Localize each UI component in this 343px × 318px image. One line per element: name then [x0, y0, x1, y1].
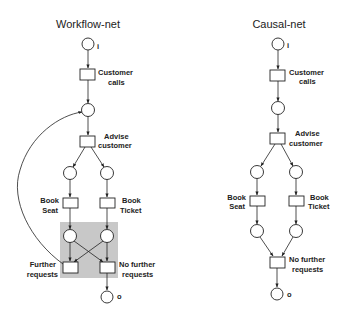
label-book-seat-2: Seat — [229, 202, 245, 211]
label-book-ticket-2: Ticket — [120, 206, 142, 215]
label-customer-calls: Customer — [98, 68, 133, 77]
transition-further-requests — [63, 262, 78, 273]
label-input: i — [97, 42, 99, 51]
place-p2 — [251, 166, 264, 179]
label-book-ticket-2: Ticket — [308, 202, 330, 211]
label-book-seat: Book — [40, 196, 60, 205]
label-book-ticket: Book — [310, 193, 330, 202]
label-advise: Advise — [104, 132, 129, 141]
diagram-canvas: Workflow-net i Cu — [0, 0, 343, 318]
label-input: i — [287, 41, 289, 50]
label-no-further-2: requests — [122, 270, 153, 279]
place-p1 — [82, 104, 95, 117]
transition-no-further-requests — [100, 262, 115, 273]
label-customer-calls: Customer — [289, 68, 324, 77]
label-advise-2: customer — [98, 141, 132, 150]
place-p1 — [272, 102, 285, 115]
label-customer-calls-2: calls — [108, 78, 125, 87]
transition-book-seat — [250, 196, 265, 206]
transition-book-ticket — [289, 196, 304, 206]
transition-no-further-requests — [270, 257, 285, 268]
transition-customer-calls — [270, 70, 285, 81]
place-p2 — [64, 167, 77, 180]
place-p3 — [290, 166, 303, 179]
label-book-seat-2: Seat — [42, 206, 58, 215]
transition-advise-customer — [80, 136, 95, 147]
label-further: Further — [30, 260, 56, 269]
transition-advise-customer — [270, 133, 285, 144]
place-input — [272, 38, 284, 50]
label-no-further: No further — [289, 255, 325, 264]
label-advise-2: customer — [289, 139, 323, 148]
place-p5 — [290, 225, 303, 238]
workflow-net: Workflow-net i Cu — [17, 18, 155, 303]
causal-net-title: Causal-net — [252, 18, 305, 30]
place-p3 — [101, 167, 114, 180]
causal-net: Causal-net i Customer calls Advise c — [227, 18, 330, 300]
place-output — [101, 291, 113, 303]
label-output: o — [287, 290, 292, 299]
place-p4 — [251, 225, 264, 238]
transition-book-ticket — [100, 198, 115, 208]
place-output — [271, 288, 283, 300]
label-book-ticket: Book — [122, 196, 142, 205]
label-output: o — [117, 292, 122, 301]
label-no-further-2: requests — [292, 265, 323, 274]
label-no-further: No further — [119, 260, 155, 269]
place-input — [82, 38, 94, 50]
transition-customer-calls — [80, 69, 95, 80]
label-advise: Advise — [295, 129, 320, 138]
place-p4 — [64, 230, 77, 243]
label-further-2: requests — [27, 270, 58, 279]
label-book-seat: Book — [227, 193, 247, 202]
place-p5 — [101, 230, 114, 243]
transition-book-seat — [63, 198, 78, 208]
label-customer-calls-2: calls — [299, 77, 316, 86]
workflow-net-title: Workflow-net — [56, 18, 120, 30]
